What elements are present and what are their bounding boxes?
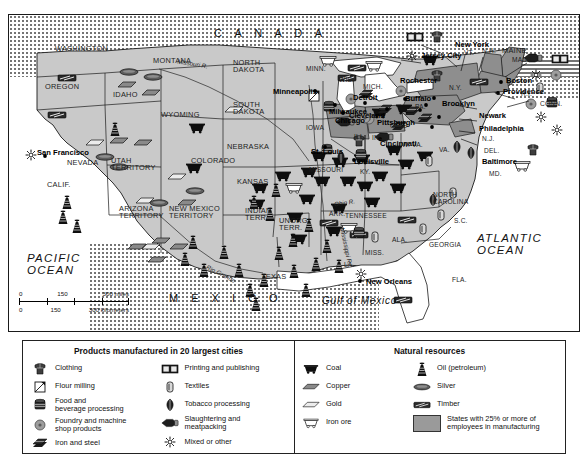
legend-item-foundry: Foundry and machineshop products [31,417,157,434]
label-connecticut: CONN. [540,101,562,108]
clothing-icon [31,362,49,376]
legend-item-tobacco: Tobacco processing [161,397,287,412]
city-rochester: Rochester [400,77,437,85]
legend-item-meatpacking: Slaughtering andmeatpacking [161,415,287,432]
label-florida: FLA. [452,277,467,284]
label-missouri: MISSOURI [309,167,343,174]
scale-km-0: 0 [19,306,22,313]
label-vermont: VT. [464,50,474,57]
label-georgia: GEORGIA [429,242,461,249]
legend-label-meatpacking: Slaughtering andmeatpacking [185,415,241,432]
label-nebraska: NEBRASKA [227,143,269,150]
legend-item-coal: Coal [302,361,409,376]
city-boston: Boston [506,77,532,85]
foundry-icon [31,418,49,432]
coal-icon [302,362,320,376]
city-buffalo: Buffalo [405,95,431,103]
scale-km-ticks: 0 150 300 kilometers [19,306,129,313]
city-jersey-city: Jersey City [421,52,462,60]
label-pennsylvania: PA. [415,104,426,111]
legend-resources-title: Natural resources [302,346,557,356]
label-wisconsin: WIS. [339,77,354,84]
label-massachusetts: MASS. [512,57,534,64]
label-arkansas: ARK. [329,211,345,218]
label-canada: C A N A D A [214,28,327,39]
label-kansas: KANSAS [237,178,269,185]
city-philadelphia: Philadelphia [479,125,524,133]
legend-products-title: Products manufactured in 20 largest citi… [31,346,286,356]
label-texas: TEXAS [261,273,286,280]
legend-divider [294,341,295,453]
legend-item-iron-steel: Iron and steel [31,436,157,451]
city-milwaukee: Milwaukee [329,108,367,116]
meatpacking-icon [161,416,179,430]
map-legend: Products manufactured in 20 largest citi… [22,340,566,454]
label-new-york: N.Y. [449,85,462,92]
scale-mi-150: 150 [57,290,67,297]
legend-label-coal: Coal [326,364,341,372]
label-delaware: DEL. [484,148,499,155]
label-maine: MAINE [502,47,527,54]
city-pittsburgh: Pittsburgh [377,119,415,127]
map-page: C A N A D A M E X I C O PACIFICOCEAN ATL… [0,0,586,466]
label-nevada: NEVADA [67,159,98,166]
legend-item-gold: Gold [302,397,409,412]
legend-label-iron-ore: Iron ore [326,418,351,426]
label-washington: WASHINGTON [55,45,108,52]
scale-mi-0: 0 [19,290,22,297]
textiles-icon [161,380,179,394]
legend-products-section: Products manufactured in 20 largest citi… [23,341,294,453]
legend-item-clothing: Clothing [31,361,157,376]
city-new-orleans: New Orleans [366,278,412,286]
label-north-carolina: NORTHCAROLINA [433,192,468,205]
legend-label-mixed-other: Mixed or other [185,438,232,446]
label-atlantic-ocean: ATLANTICOCEAN [477,233,542,256]
legend-item-mixed-other: Mixed or other [161,435,287,450]
iron-ore-icon [302,416,320,430]
city-baltimore: Baltimore [482,158,517,166]
legend-label-printing: Printing and publishing [185,364,260,372]
city-chicago: Chicago [335,117,365,125]
label-pacific-ocean: PACIFICOCEAN [27,253,81,276]
city-minneapolis: Minneapolis [273,88,317,96]
label-wyoming: WYOMING [161,111,200,118]
legend-item-manufacturing-states: States with 25% or more ofemployees in m… [413,415,557,432]
label-north-dakota: NORTHDAKOTA [233,59,264,74]
city-detroit: Detroit [353,94,377,102]
legend-label-copper: Copper [326,382,350,390]
city-louisville: Louisville [354,158,389,166]
legend-resources-col1: Coal Copper Gold [302,361,409,432]
oil-derrick-icon [413,362,431,376]
legend-item-food-beverage: Food andbeverage processing [31,397,157,414]
legend-item-printing: Printing and publishing [161,361,287,376]
iron-steel-icon [31,437,49,451]
city-providence: Providence [503,88,544,96]
label-arizona-terr: ARIZONATERRITORY [119,205,164,220]
label-iowa: IOWA [306,125,324,132]
legend-products-col2: Printing and publishing Textiles Tobacco… [161,361,287,451]
label-oregon: OREGON [45,83,79,90]
printing-icon [161,362,179,376]
label-south-dakota: SOUTHDAKOTA [233,101,264,116]
label-louisiana: LA. [344,262,355,269]
label-virginia: VA. [439,147,450,154]
label-indian-terr: INDIANTERR. [245,207,272,222]
label-illinois: ILL. [354,134,366,141]
tobacco-icon [161,398,179,412]
city-brooklyn: Brooklyn [442,100,475,108]
legend-item-iron-ore: Iron ore [302,415,409,430]
label-california: CALIF. [47,181,71,188]
copper-icon [302,380,320,394]
scale-bar-graphic [19,298,129,305]
label-gulf-of-mexico: Gulf of Mexico [322,296,397,306]
legend-resources-section: Natural resources Coal Copper [294,341,565,453]
legend-item-oil: Oil (petroleum) [413,361,557,376]
label-idaho: IDAHO [113,91,138,98]
legend-item-copper: Copper [302,379,409,394]
city-san-francisco: San Francisco [37,149,89,157]
label-utah-terr: UTAHTERRITORY [111,157,156,172]
mixed-other-icon [161,435,179,449]
label-mississippi: MISS. [365,250,384,257]
label-minnesota: MINN. [306,66,326,73]
legend-label-iron-steel: Iron and steel [55,439,100,447]
